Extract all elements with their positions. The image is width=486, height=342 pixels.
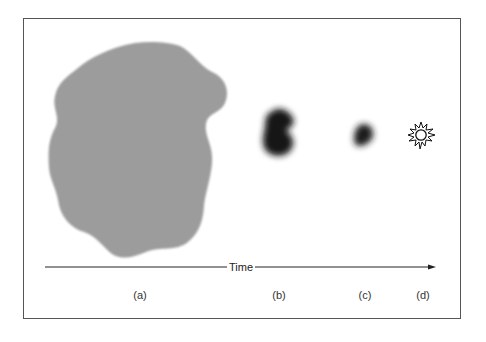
cloud-b xyxy=(263,109,294,156)
diagram-art xyxy=(0,0,486,342)
star-burst-icon xyxy=(408,122,435,149)
time-axis-label: Time xyxy=(227,261,255,273)
cloud-a xyxy=(49,42,228,258)
stage-label-a: (a) xyxy=(133,289,146,301)
stage-label-c: (c) xyxy=(359,289,372,301)
arrowhead-icon xyxy=(428,265,436,270)
stage-label-d: (d) xyxy=(416,289,429,301)
cloud-c xyxy=(354,124,373,146)
stage-label-b: (b) xyxy=(272,289,285,301)
